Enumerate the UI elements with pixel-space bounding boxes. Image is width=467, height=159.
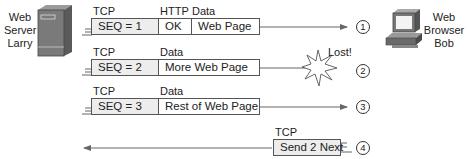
desktop-computer-icon xyxy=(386,9,422,48)
server-label-line: Larry xyxy=(4,37,36,50)
client-label-line: Bob xyxy=(422,37,466,50)
header-label-data: Data xyxy=(160,46,183,58)
lost-label: Lost! xyxy=(328,46,352,58)
ack-field: Send 2 Next xyxy=(273,139,341,156)
client-label: Web Browser Bob xyxy=(422,11,466,50)
server-tower-icon xyxy=(38,5,72,56)
data-field: Rest of Web Page xyxy=(158,98,260,115)
http-field: OK xyxy=(158,18,192,35)
step-number: 1 xyxy=(356,20,370,34)
tcp-seq-field: SEQ = 1 xyxy=(91,18,159,35)
server-label-line: Web xyxy=(4,11,36,24)
step-number: 2 xyxy=(356,64,370,78)
tcp-seq-field: SEQ = 2 xyxy=(91,59,159,76)
client-label-line: Web xyxy=(422,11,466,24)
client-label-line: Browser xyxy=(422,24,466,37)
header-label-tcp: TCP xyxy=(275,126,297,138)
server-label-line: Server xyxy=(4,24,36,37)
header-label-data: Data xyxy=(192,5,215,17)
server-label: Web Server Larry xyxy=(4,11,36,50)
step-number: 3 xyxy=(356,100,370,114)
tcp-seq-field: SEQ = 3 xyxy=(91,98,159,115)
header-label-tcp: TCP xyxy=(93,46,115,58)
data-field: Web Page xyxy=(191,18,260,35)
header-label-tcp: TCP xyxy=(93,5,115,17)
data-field: More Web Page xyxy=(158,59,260,76)
header-label-tcp: TCP xyxy=(93,85,115,97)
header-label-http: HTTP xyxy=(160,5,189,17)
step-number: 4 xyxy=(356,141,370,155)
header-label-data: Data xyxy=(160,85,183,97)
